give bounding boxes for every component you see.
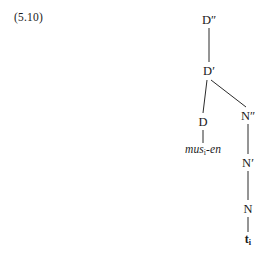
example-number: (5.10) [14, 11, 43, 23]
terminal-musen: musi-en [185, 144, 221, 157]
node-n-head: N [243, 203, 252, 216]
tree-edges [0, 0, 274, 259]
node-d-prime: D′ [203, 65, 215, 78]
syntax-tree-figure: (5.10) D″ D′ D N″ N′ N musi-en ti [0, 0, 274, 259]
edge-dbar-nmax [211, 80, 246, 107]
terminal-musen-suffix: -en [206, 143, 221, 155]
terminal-musen-stem: mus [185, 143, 204, 155]
edge-dbar-dhead [203, 80, 207, 113]
node-d-double-prime: D″ [202, 14, 216, 27]
terminal-trace: ti [245, 233, 251, 247]
terminal-trace-index: i [249, 238, 251, 247]
node-n-prime: N′ [242, 157, 254, 170]
node-d-head: D [198, 116, 207, 129]
node-n-double-prime: N″ [241, 110, 255, 123]
